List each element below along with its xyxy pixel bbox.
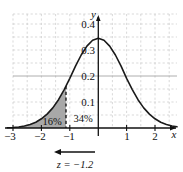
x-tick-label-minus-1: −1 [63, 130, 75, 142]
grid-lines [13, 14, 177, 128]
chart-canvas: y x 0.4 0.3 0.2 0.1 −3 −2 −1 1 2 16% 34%… [0, 0, 183, 172]
y-axis-arrowhead [96, 15, 101, 21]
z-arrow [54, 149, 95, 155]
x-tick-label-plus-2: 2 [152, 130, 158, 142]
x-tick-label-plus-1: 1 [124, 130, 130, 142]
y-tick-label-0-2: 0.2 [81, 70, 95, 82]
y-tick-label-0-4: 0.4 [81, 18, 95, 30]
tail-area-label: 16% [42, 116, 62, 127]
x-axis-label: x [171, 128, 177, 140]
y-tick-label-0-1: 0.1 [81, 96, 95, 108]
y-tick-label-0-3: 0.3 [81, 44, 95, 56]
normal-distribution-figure: y x 0.4 0.3 0.2 0.1 −3 −2 −1 1 2 16% 34%… [0, 0, 183, 172]
x-tick-label-minus-3: −3 [4, 130, 16, 142]
z-value-label: z = −1.2 [56, 159, 94, 170]
middle-area-label: 34% [73, 113, 93, 124]
x-tick-label-minus-2: −2 [34, 130, 46, 142]
